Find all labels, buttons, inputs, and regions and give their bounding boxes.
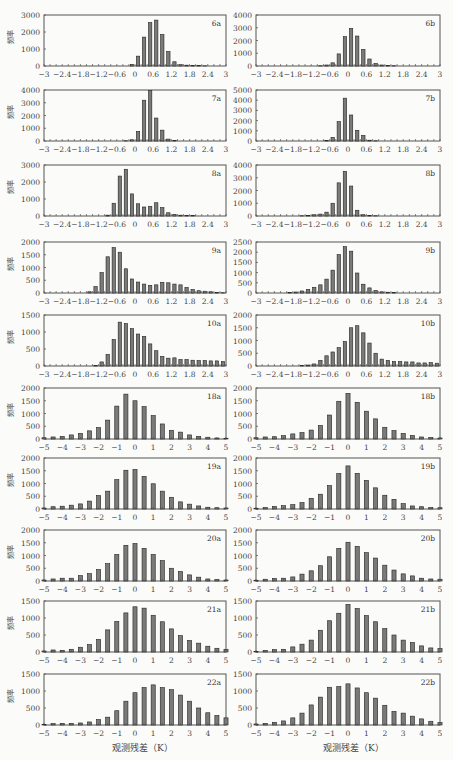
histogram-panel-8b: 01000200030004000−3−2.4−1.8−1.2−0.600.61… (0, 0, 453, 760)
histogram-panel-21a: 050010001500−5−4−3−2−101234521a频率 (0, 0, 453, 760)
svg-text:−0.6: −0.6 (108, 220, 126, 229)
histogram-panel-6a: 0100020003000−3−2.4−1.8−1.2−0.600.61.21.… (0, 0, 453, 760)
svg-text:1.8: 1.8 (184, 370, 196, 379)
svg-text:20b: 20b (421, 534, 436, 543)
svg-text:4: 4 (419, 585, 424, 594)
svg-text:−3: −3 (75, 585, 86, 594)
svg-text:1000: 1000 (21, 328, 40, 337)
svg-text:1500: 1500 (21, 539, 40, 548)
svg-text:0: 0 (346, 220, 351, 229)
svg-text:1500: 1500 (233, 324, 252, 333)
svg-text:2.4: 2.4 (202, 70, 214, 79)
svg-text:−4: −4 (57, 729, 68, 738)
svg-text:−1: −1 (111, 585, 122, 594)
svg-text:2500: 2500 (233, 238, 252, 247)
svg-text:2000: 2000 (233, 187, 252, 196)
svg-text:−1.8: −1.8 (284, 220, 302, 229)
svg-text:−2.4: −2.4 (265, 220, 283, 229)
svg-text:22a: 22a (207, 678, 222, 687)
svg-text:−1.2: −1.2 (302, 220, 320, 229)
svg-text:频率: 频率 (6, 30, 15, 44)
svg-text:1000: 1000 (233, 199, 252, 208)
svg-text:−2.4: −2.4 (265, 370, 283, 379)
svg-text:−3: −3 (250, 70, 261, 79)
svg-text:0: 0 (346, 370, 351, 379)
svg-text:0: 0 (133, 220, 138, 229)
svg-text:−4: −4 (57, 513, 68, 522)
svg-text:1.2: 1.2 (379, 220, 391, 229)
svg-text:−4: −4 (57, 656, 68, 665)
svg-text:−3: −3 (250, 370, 261, 379)
svg-text:1.8: 1.8 (184, 297, 196, 306)
svg-text:2.4: 2.4 (416, 220, 428, 229)
svg-text:0: 0 (346, 513, 351, 522)
svg-text:1000: 1000 (233, 49, 252, 58)
histogram-panel-6b: 01000200030004000−3−2.4−1.8−1.2−0.600.61… (0, 0, 453, 760)
svg-text:0: 0 (35, 137, 40, 146)
histogram-panel-21b: 050010001500−5−4−3−2−101234521b (0, 0, 453, 760)
svg-text:−5: −5 (38, 513, 49, 522)
svg-text:2: 2 (169, 585, 174, 594)
svg-text:−1: −1 (111, 443, 122, 452)
svg-text:2.4: 2.4 (202, 297, 214, 306)
svg-text:3: 3 (187, 585, 192, 594)
svg-text:−2: −2 (93, 729, 104, 738)
svg-text:2000: 2000 (21, 28, 40, 37)
svg-text:−1.2: −1.2 (89, 220, 107, 229)
svg-text:−2: −2 (306, 513, 317, 522)
svg-text:1000: 1000 (233, 269, 252, 278)
svg-text:−2.4: −2.4 (265, 297, 283, 306)
svg-text:4000: 4000 (233, 96, 252, 105)
svg-text:−3: −3 (75, 513, 86, 522)
svg-text:−3: −3 (75, 656, 86, 665)
svg-text:1.8: 1.8 (184, 220, 196, 229)
svg-text:−1.8: −1.8 (71, 370, 89, 379)
svg-text:500: 500 (26, 631, 41, 640)
histogram-panel-18a: 0500100015002000−5−4−3−2−101234518a频率 (0, 0, 453, 760)
svg-text:0: 0 (346, 145, 351, 154)
svg-text:1.2: 1.2 (165, 145, 177, 154)
svg-text:2000: 2000 (233, 117, 252, 126)
svg-text:4: 4 (419, 729, 424, 738)
svg-text:1000: 1000 (21, 687, 40, 696)
svg-text:频率: 频率 (6, 616, 15, 630)
svg-text:−0.6: −0.6 (320, 145, 338, 154)
svg-text:−1.2: −1.2 (89, 145, 107, 154)
svg-text:1500: 1500 (233, 539, 252, 548)
svg-text:3: 3 (224, 145, 229, 154)
svg-text:21a: 21a (207, 605, 222, 614)
svg-text:1: 1 (151, 513, 156, 522)
svg-text:500: 500 (26, 276, 41, 285)
svg-text:500: 500 (26, 422, 41, 431)
svg-text:−1: −1 (111, 513, 122, 522)
svg-text:3000: 3000 (21, 11, 40, 20)
svg-text:−1: −1 (111, 656, 122, 665)
svg-text:19b: 19b (421, 462, 436, 471)
svg-text:0: 0 (35, 505, 40, 514)
svg-text:2000: 2000 (21, 178, 40, 187)
svg-text:2: 2 (169, 443, 174, 452)
svg-text:1: 1 (364, 513, 369, 522)
svg-text:3: 3 (187, 513, 192, 522)
svg-text:500: 500 (26, 492, 41, 501)
svg-text:2: 2 (169, 513, 174, 522)
svg-text:2000: 2000 (21, 384, 40, 393)
svg-text:500: 500 (238, 564, 253, 573)
svg-text:5: 5 (224, 729, 229, 738)
svg-text:1.8: 1.8 (397, 370, 409, 379)
svg-text:2000: 2000 (233, 526, 252, 535)
svg-text:8b: 8b (425, 169, 435, 178)
svg-text:21b: 21b (421, 605, 436, 614)
svg-text:1: 1 (364, 443, 369, 452)
svg-text:1: 1 (151, 656, 156, 665)
svg-text:−2.4: −2.4 (53, 145, 71, 154)
svg-text:3000: 3000 (233, 106, 252, 115)
svg-text:3: 3 (438, 370, 443, 379)
svg-text:−1: −1 (111, 729, 122, 738)
svg-text:−1.2: −1.2 (302, 145, 320, 154)
histogram-panel-7a: 01000200030004000−3−2.4−1.8−1.2−0.600.61… (0, 0, 453, 760)
svg-text:1000: 1000 (21, 124, 40, 133)
svg-text:2.4: 2.4 (416, 370, 428, 379)
svg-text:1500: 1500 (21, 670, 40, 679)
svg-text:0: 0 (35, 62, 40, 71)
